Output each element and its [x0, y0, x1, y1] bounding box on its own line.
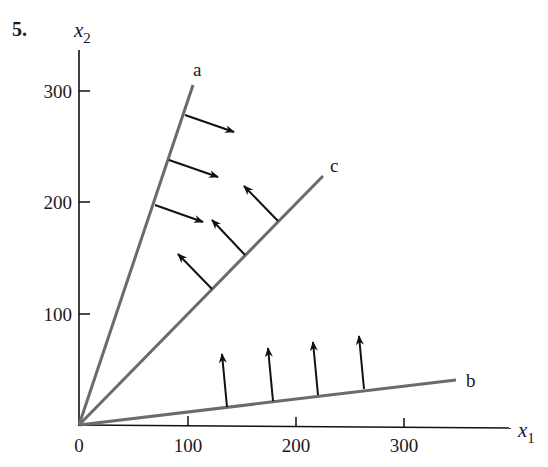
- problem-number: 5.: [12, 18, 27, 40]
- arrow-icon: [178, 254, 212, 289]
- y-tick-label-100: 100: [44, 304, 73, 325]
- arrows-line-b: [222, 336, 364, 407]
- line-a-label: a: [193, 59, 202, 80]
- y-axis-label: x2: [73, 18, 91, 46]
- arrows-line-a: [155, 115, 234, 222]
- axes: [78, 50, 511, 428]
- line-b-label: b: [466, 370, 476, 391]
- x-tick-label-0: 0: [74, 435, 84, 456]
- line-c-label: c: [330, 155, 338, 176]
- y-tick-label-300: 300: [44, 81, 73, 102]
- arrow-icon: [313, 342, 318, 395]
- line-a: [79, 85, 193, 425]
- arrow-icon: [222, 354, 227, 407]
- diagram-canvas: 5. x2 x1 300 200 100 0 100 200 300 a c b: [0, 0, 548, 467]
- arrow-icon: [155, 205, 203, 222]
- arrow-icon: [244, 186, 278, 221]
- constraint-lines: [79, 85, 456, 425]
- x-tick-label-300: 300: [390, 435, 419, 456]
- x-axis-label: x1: [517, 418, 535, 446]
- x-tick-label-100: 100: [174, 435, 203, 456]
- line-b: [79, 380, 456, 425]
- arrow-icon: [359, 336, 364, 389]
- x-tick-label-200: 200: [282, 435, 311, 456]
- arrow-icon: [212, 220, 245, 255]
- line-c: [79, 176, 323, 425]
- y-tick-label-200: 200: [44, 192, 73, 213]
- arrow-icon: [268, 348, 273, 401]
- arrow-icon: [185, 115, 234, 132]
- arrow-icon: [169, 160, 218, 177]
- x-axis: [78, 425, 511, 428]
